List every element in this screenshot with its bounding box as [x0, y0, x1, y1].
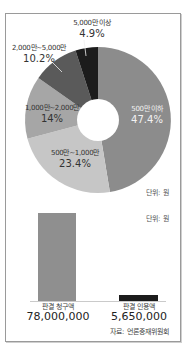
donut-hole: [77, 99, 119, 141]
source-note: 자료: 언론중재위원회: [110, 326, 169, 336]
bar-unit-label: 단위: 원: [146, 213, 169, 223]
label-1000-2000: 1,000만~2,000만 14%: [22, 105, 82, 124]
bar-label-claim: 판결 청구액 78,000,000: [22, 303, 94, 324]
donut-unit-label: 단위: 원: [146, 187, 169, 197]
bar-chart: [30, 213, 166, 302]
label-under-500: 500만 이하 47.4%: [122, 106, 172, 125]
label-over-5000: 5,000만 이상 4.9%: [62, 20, 122, 39]
label-500-1000: 500만~1,000만 23.4%: [42, 150, 108, 169]
bar-claim: [38, 213, 76, 301]
label-2000-5000: 2,000만~5,000만 10.2%: [4, 45, 74, 64]
bar-label-awarded: 판결 인용액 5,650,000: [104, 303, 174, 324]
bar-awarded: [119, 295, 158, 301]
